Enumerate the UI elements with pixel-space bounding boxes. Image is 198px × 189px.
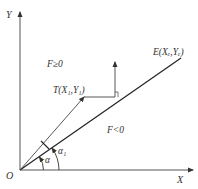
y-axis-label: Y: [6, 9, 13, 20]
line-oe: [20, 58, 181, 170]
alpha1-label: α₁: [58, 146, 66, 156]
origin-label: O: [6, 170, 13, 181]
end-point-label: E(Xₑ,Yₑ): [152, 47, 184, 58]
x-axis-label: X: [176, 174, 184, 185]
region-above-label: F≥0: [46, 59, 63, 69]
current-point-label: T(X₁,Y₁): [53, 85, 85, 96]
vector-ot: [20, 97, 84, 170]
region-below-label: F<0: [106, 125, 124, 135]
arc-alpha: [40, 157, 44, 170]
alpha-label: α: [45, 155, 51, 165]
interpolation-diagram: Y X O F≥0 F<0 E(Xₑ,Yₑ) T(X₁,Y₁) α α₁: [0, 0, 198, 189]
